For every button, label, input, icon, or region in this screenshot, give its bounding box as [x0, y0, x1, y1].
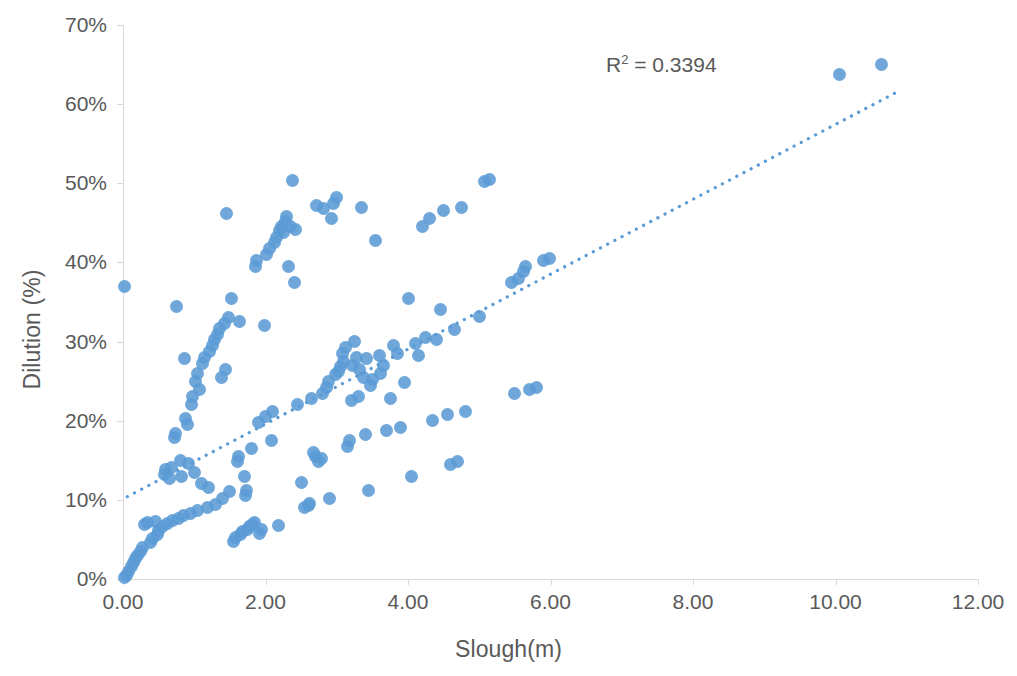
data-point — [437, 204, 450, 217]
data-point — [412, 349, 425, 362]
x-axis-title: Slough(m) — [0, 636, 1017, 663]
data-point — [258, 319, 271, 332]
data-point — [245, 442, 258, 455]
data-point — [238, 470, 251, 483]
data-point — [459, 405, 472, 418]
data-point — [255, 523, 268, 536]
data-point — [402, 292, 415, 305]
data-point — [391, 347, 404, 360]
data-point — [330, 191, 343, 204]
data-point — [543, 252, 556, 265]
data-point — [473, 310, 486, 323]
data-point — [193, 383, 206, 396]
data-point — [833, 68, 846, 81]
data-point — [369, 234, 382, 247]
data-point — [508, 387, 521, 400]
data-point — [352, 390, 365, 403]
data-point — [315, 452, 328, 465]
data-point — [394, 421, 407, 434]
r-squared-annotation: R2 = 0.3394 — [606, 52, 717, 77]
data-point — [233, 315, 246, 328]
data-point — [343, 434, 356, 447]
scatter-chart: 0%10%20%30%40%50%60%70% 0.002.004.006.00… — [0, 0, 1017, 676]
data-point — [430, 333, 443, 346]
data-point — [434, 303, 447, 316]
data-point — [441, 408, 454, 421]
data-point — [323, 492, 336, 505]
data-point — [202, 481, 215, 494]
data-point — [355, 201, 368, 214]
data-point — [405, 470, 418, 483]
data-point — [348, 335, 361, 348]
data-point — [426, 414, 439, 427]
data-point — [295, 476, 308, 489]
data-point — [170, 300, 183, 313]
data-point — [265, 434, 278, 447]
data-point — [303, 497, 316, 510]
data-point — [359, 428, 372, 441]
data-point — [289, 223, 302, 236]
data-point — [118, 280, 131, 293]
data-point — [360, 352, 373, 365]
data-point — [220, 207, 233, 220]
data-point — [455, 201, 468, 214]
data-point — [272, 519, 285, 532]
data-point — [483, 173, 496, 186]
data-point — [288, 276, 301, 289]
data-point — [380, 424, 393, 437]
data-point — [325, 212, 338, 225]
data-point — [384, 392, 397, 405]
data-point — [232, 450, 245, 463]
r-squared-base: R — [606, 53, 621, 76]
data-point — [875, 58, 888, 71]
data-point — [448, 323, 461, 336]
y-axis-title: Dilution (%) — [19, 130, 46, 530]
data-point — [181, 418, 194, 431]
data-point — [175, 470, 188, 483]
data-point — [219, 363, 232, 376]
r-squared-value: = 0.3394 — [628, 53, 716, 76]
data-point — [291, 398, 304, 411]
plot-area — [0, 0, 1017, 676]
data-point — [362, 484, 375, 497]
data-point — [519, 260, 532, 273]
data-point — [286, 174, 299, 187]
data-point — [266, 405, 279, 418]
data-point — [451, 455, 464, 468]
data-point — [225, 292, 238, 305]
data-point — [530, 381, 543, 394]
data-point — [423, 212, 436, 225]
data-point — [163, 472, 176, 485]
data-point — [282, 260, 295, 273]
data-point — [178, 352, 191, 365]
data-point — [398, 376, 411, 389]
data-point — [377, 359, 390, 372]
data-point — [223, 485, 236, 498]
